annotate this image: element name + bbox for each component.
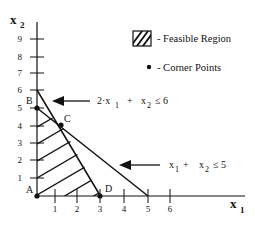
arrow-icon <box>119 160 160 170</box>
x-tick-labels: 1 2 3 4 5 6 <box>53 204 173 214</box>
corner-point-d <box>97 193 102 198</box>
hatched-box-icon <box>128 27 157 50</box>
constraint-label-1: 2·x 1 + x 2 ≤ 6 <box>97 95 168 110</box>
svg-text:3: 3 <box>98 204 103 214</box>
corner-point-c <box>58 122 63 127</box>
svg-text:D: D <box>105 183 112 194</box>
svg-text:x: x <box>169 159 174 170</box>
svg-text:3: 3 <box>18 138 23 148</box>
svg-text:2: 2 <box>205 165 209 174</box>
svg-text:+: + <box>127 95 133 106</box>
y-axis-label: x 2 <box>10 12 25 30</box>
feasible-region-hatch <box>20 50 140 226</box>
svg-text:- Feasible Region: - Feasible Region <box>157 33 232 44</box>
svg-text:x: x <box>141 95 146 106</box>
svg-text:1: 1 <box>53 204 58 214</box>
svg-text:5: 5 <box>146 204 151 214</box>
svg-text:2: 2 <box>147 101 151 110</box>
svg-text:4: 4 <box>18 121 23 131</box>
constraint-label-2: x 1 + x 2 ≤ 5 <box>169 159 226 174</box>
svg-text:2: 2 <box>75 204 80 214</box>
svg-text:4: 4 <box>122 204 127 214</box>
svg-text:9: 9 <box>18 34 23 44</box>
svg-text:6: 6 <box>168 204 173 214</box>
corner-point-a <box>34 193 39 198</box>
svg-text:8: 8 <box>18 52 23 62</box>
svg-text:A: A <box>26 184 34 195</box>
svg-text:5: 5 <box>18 103 23 113</box>
svg-text:x: x <box>199 159 204 170</box>
arrow-icon <box>52 96 90 106</box>
svg-text:x: x <box>10 12 17 27</box>
svg-text:7: 7 <box>18 68 23 78</box>
svg-text:+: + <box>183 159 189 170</box>
corner-point-legend-icon <box>147 65 151 69</box>
svg-text:1: 1 <box>175 165 179 174</box>
svg-text:≤ 5: ≤ 5 <box>213 159 226 170</box>
constraint-line-2x1-x2-6 <box>37 90 101 197</box>
legend: - Feasible Region - Corner Points <box>128 27 232 73</box>
svg-text:2: 2 <box>20 20 25 30</box>
svg-text:1: 1 <box>115 101 119 110</box>
svg-text:2: 2 <box>18 155 23 165</box>
y-tick-labels: 1 2 3 4 5 6 7 8 9 <box>18 34 23 183</box>
svg-text:6: 6 <box>18 85 23 95</box>
svg-text:1: 1 <box>240 205 245 215</box>
corner-point-b <box>34 105 39 110</box>
svg-text:C: C <box>64 113 71 124</box>
svg-text:1: 1 <box>18 173 23 183</box>
svg-text:x: x <box>230 196 237 211</box>
svg-text:≤ 6: ≤ 6 <box>155 95 168 106</box>
svg-text:B: B <box>26 95 33 106</box>
lp-diagram: 1 2 3 4 5 6 7 8 9 1 2 3 4 5 6 x 2 x 1 <box>0 0 255 226</box>
x-axis-label: x 1 <box>230 196 245 215</box>
svg-text:- Corner Points: - Corner Points <box>157 62 221 73</box>
svg-text:2·x: 2·x <box>97 95 110 106</box>
